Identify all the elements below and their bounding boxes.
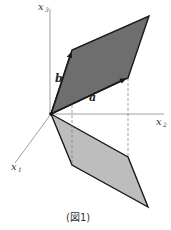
figure-caption: (図1) [66, 212, 90, 223]
span-parallelogram [51, 16, 149, 114]
projection-parallelogram [51, 114, 148, 207]
svg-text:1: 1 [18, 166, 22, 173]
svg-text:x: x [38, 1, 44, 12]
x2-axis-label: x 2 [156, 116, 167, 128]
svg-text:x: x [156, 116, 162, 127]
origin-point [49, 112, 53, 116]
vector-a-label: a [89, 91, 96, 104]
x3-axis-label: x 3 [38, 1, 49, 13]
svg-text:3: 3 [45, 6, 49, 13]
x1-axis-label: x 1 [11, 161, 22, 173]
svg-text:x: x [11, 161, 17, 172]
x1-axis [15, 114, 51, 163]
vector-b-label: b [55, 72, 63, 85]
svg-text:2: 2 [162, 121, 167, 128]
vector-parallelogram-diagram: b a x 3 x 2 x 1 (図1) [0, 0, 171, 230]
